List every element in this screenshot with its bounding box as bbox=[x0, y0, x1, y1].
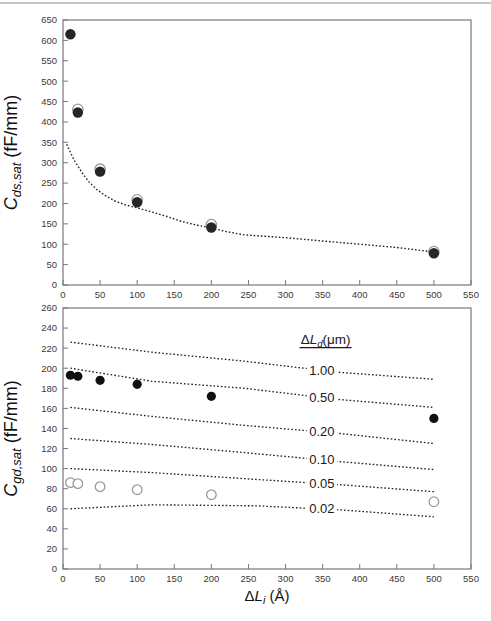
y-tick-label: 60 bbox=[46, 503, 57, 514]
x-tick-label: 350 bbox=[315, 573, 331, 584]
x-tick-label: 150 bbox=[166, 289, 182, 300]
data-point-filled bbox=[95, 166, 105, 176]
figure: 0501001502002503003504004505005500501001… bbox=[0, 0, 491, 621]
cds-model-dotted-curve bbox=[67, 144, 434, 252]
y-tick-label: 600 bbox=[41, 35, 57, 46]
y-tick-label: 240 bbox=[41, 322, 57, 333]
y-tick-label: 650 bbox=[41, 14, 57, 25]
y-tick-label: 100 bbox=[41, 463, 57, 474]
y-tick-label: 140 bbox=[41, 423, 57, 434]
x-tick-label: 250 bbox=[241, 573, 257, 584]
y-tick-label: 250 bbox=[41, 177, 57, 188]
data-point-filled bbox=[95, 376, 104, 385]
x-tick-label: 550 bbox=[463, 289, 479, 300]
data-point-filled bbox=[133, 380, 142, 389]
x-tick-label: 250 bbox=[241, 289, 257, 300]
cgd-y-axis-title: Cgd,sat (fF/mm) bbox=[1, 380, 24, 496]
y-tick-label: 220 bbox=[41, 343, 57, 354]
cds-frame bbox=[63, 20, 471, 285]
y-tick-label: 180 bbox=[41, 383, 57, 394]
cds-filled-circles bbox=[65, 29, 439, 258]
data-point-open bbox=[429, 497, 439, 507]
param-line-label-0.10: 0.10 bbox=[309, 452, 334, 467]
y-tick-label: 120 bbox=[41, 443, 57, 454]
y-tick-label: 260 bbox=[41, 302, 57, 313]
y-tick-label: 0 bbox=[52, 279, 57, 290]
data-point-filled bbox=[206, 222, 216, 232]
data-point-filled bbox=[429, 414, 438, 423]
x-tick-label: 50 bbox=[95, 573, 106, 584]
param-line-label-0.20: 0.20 bbox=[309, 424, 334, 439]
cgd-legend-title: ΔLd(μm) bbox=[301, 332, 351, 349]
cds-open-circles bbox=[73, 104, 439, 257]
cgd-frame bbox=[63, 308, 471, 569]
data-point-open bbox=[132, 485, 142, 495]
x-tick-label: 150 bbox=[166, 573, 182, 584]
x-tick-label: 450 bbox=[389, 289, 405, 300]
x-tick-label: 100 bbox=[129, 573, 145, 584]
cds-plot: 0501001502002503003504004505005500501001… bbox=[1, 14, 479, 300]
y-tick-label: 200 bbox=[41, 363, 57, 374]
data-point-filled bbox=[429, 248, 439, 258]
x-tick-label: 200 bbox=[203, 573, 219, 584]
cds-y-axis: 050100150200250300350400450500550600650 bbox=[41, 14, 68, 290]
y-tick-label: 150 bbox=[41, 218, 57, 229]
data-point-filled bbox=[73, 107, 83, 117]
cgd-filled-circles bbox=[66, 371, 439, 423]
x-tick-label: 400 bbox=[352, 573, 368, 584]
y-tick-label: 160 bbox=[41, 403, 57, 414]
x-tick-label: 550 bbox=[463, 573, 479, 584]
data-point-filled bbox=[207, 392, 216, 401]
param-line-label-0.02: 0.02 bbox=[309, 501, 334, 516]
x-tick-label: 50 bbox=[95, 289, 106, 300]
y-tick-label: 20 bbox=[46, 543, 57, 554]
y-tick-label: 40 bbox=[46, 523, 57, 534]
cgd-x-axis: 050100150200250300350400450500550 bbox=[60, 564, 479, 584]
param-line-0.20 bbox=[70, 407, 434, 443]
y-tick-label: 300 bbox=[41, 157, 57, 168]
y-tick-label: 0 bbox=[52, 563, 57, 574]
param-line-0.02 bbox=[70, 505, 434, 517]
y-tick-label: 400 bbox=[41, 116, 57, 127]
page-top-rule bbox=[0, 2, 491, 4]
y-tick-label: 450 bbox=[41, 96, 57, 107]
y-tick-label: 100 bbox=[41, 239, 57, 250]
y-tick-label: 350 bbox=[41, 137, 57, 148]
data-point-open bbox=[95, 482, 105, 492]
data-point-filled bbox=[65, 29, 75, 39]
charts-svg: 0501001502002503003504004505005500501001… bbox=[0, 0, 491, 621]
cgd-x-axis-title: ΔLi (Å) bbox=[245, 587, 290, 606]
param-line-0.10 bbox=[70, 439, 434, 470]
cgd-y-axis: 020406080100120140160180200220240260 bbox=[41, 302, 68, 574]
x-tick-label: 400 bbox=[352, 289, 368, 300]
cds-y-axis-title: Cds,sat (fF/mm) bbox=[1, 95, 24, 211]
x-tick-label: 450 bbox=[389, 573, 405, 584]
x-tick-label: 500 bbox=[426, 289, 442, 300]
x-tick-label: 0 bbox=[60, 573, 65, 584]
param-line-label-1.00: 1.00 bbox=[309, 363, 334, 378]
cgd-plot: 0501001502002503003504004505005500204060… bbox=[1, 302, 479, 606]
y-tick-label: 80 bbox=[46, 483, 57, 494]
data-point-filled bbox=[73, 372, 82, 381]
param-line-label-0.05: 0.05 bbox=[309, 476, 334, 491]
data-point-filled bbox=[132, 197, 142, 207]
param-line-0.05 bbox=[70, 469, 434, 492]
x-tick-label: 200 bbox=[203, 289, 219, 300]
y-tick-label: 500 bbox=[41, 76, 57, 87]
x-tick-label: 350 bbox=[315, 289, 331, 300]
y-tick-label: 200 bbox=[41, 198, 57, 209]
cds-x-axis: 050100150200250300350400450500550 bbox=[60, 280, 479, 300]
x-tick-label: 300 bbox=[278, 289, 294, 300]
data-point-open bbox=[73, 479, 83, 489]
data-point-open bbox=[207, 490, 217, 500]
param-line-1.00 bbox=[70, 342, 434, 379]
y-tick-label: 550 bbox=[41, 55, 57, 66]
param-line-0.50 bbox=[70, 368, 434, 407]
y-tick-label: 50 bbox=[46, 259, 57, 270]
cgd-open-circles bbox=[66, 478, 439, 507]
x-tick-label: 300 bbox=[278, 573, 294, 584]
x-tick-label: 0 bbox=[60, 289, 65, 300]
x-tick-label: 500 bbox=[426, 573, 442, 584]
param-line-label-0.50: 0.50 bbox=[309, 390, 334, 405]
x-tick-label: 100 bbox=[129, 289, 145, 300]
